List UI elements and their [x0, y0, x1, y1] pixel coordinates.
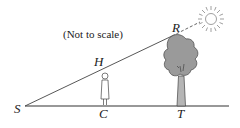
label-c: C	[99, 106, 108, 121]
not-to-scale-note: (Not to scale)	[63, 28, 123, 41]
label-r: R	[171, 20, 180, 35]
diagram-canvas: (Not to scale) S H C R T	[0, 0, 240, 128]
label-h: H	[93, 54, 104, 69]
sight-line-sr	[25, 36, 172, 106]
person-icon	[101, 73, 109, 105]
sun-icon	[198, 6, 224, 32]
label-s: S	[14, 101, 21, 116]
label-t: T	[177, 106, 185, 121]
tree-icon	[164, 35, 198, 106]
